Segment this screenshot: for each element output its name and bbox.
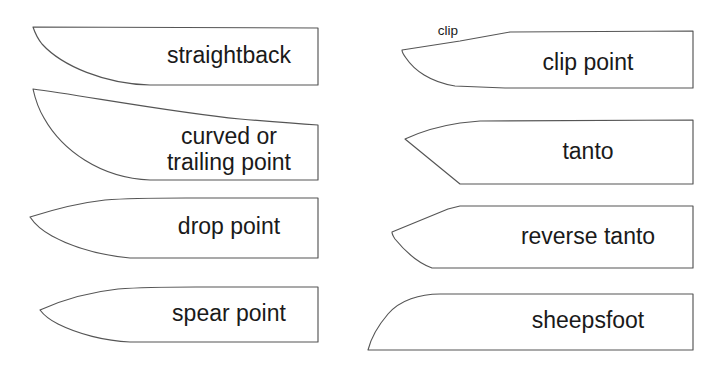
clip-annotation-label: clip xyxy=(438,23,458,38)
blade-curved-trailing-point: curved or trailing point xyxy=(33,89,318,180)
tanto-label: tanto xyxy=(562,138,613,164)
blade-spear-point: spear point xyxy=(40,287,318,342)
sheepsfoot-label: sheepsfoot xyxy=(532,307,645,333)
blade-sheepsfoot: sheepsfoot xyxy=(368,294,693,350)
tanto-outline xyxy=(405,120,693,184)
straightback-label: straightback xyxy=(167,42,292,68)
drop-point-label: drop point xyxy=(178,213,281,239)
reverse-tanto-label: reverse tanto xyxy=(521,223,655,249)
blade-clip-point: clip clip point xyxy=(402,23,693,88)
blade-shape-diagram: straightback curved or trailing point dr… xyxy=(0,0,715,376)
blade-shapes-svg: straightback curved or trailing point dr… xyxy=(0,0,715,376)
clip-point-label: clip point xyxy=(543,49,634,75)
spear-point-label: spear point xyxy=(172,300,286,326)
curved-trailing-point-label-line2: trailing point xyxy=(167,149,292,175)
curved-trailing-point-label-line1: curved or xyxy=(181,123,277,149)
blade-tanto: tanto xyxy=(405,120,693,184)
blade-straightback: straightback xyxy=(33,27,318,85)
blade-reverse-tanto: reverse tanto xyxy=(392,206,693,268)
blade-drop-point: drop point xyxy=(30,198,318,258)
